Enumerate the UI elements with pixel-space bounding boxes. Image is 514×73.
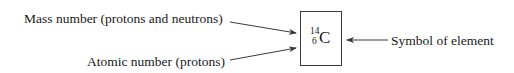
atomic-number-arrow-icon xyxy=(230,48,296,60)
arrows-layer xyxy=(0,0,514,73)
mass-number-arrow-icon xyxy=(230,22,296,33)
